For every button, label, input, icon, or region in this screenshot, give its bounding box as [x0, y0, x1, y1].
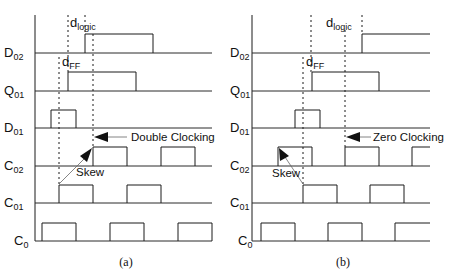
label-dff: dFF [306, 54, 325, 71]
waveform-c01 [303, 185, 404, 203]
label-dlogic: dlogic [326, 15, 352, 32]
label-dlogic: dlogic [70, 15, 96, 32]
waveform-q01 [68, 72, 136, 91]
signal-label-d01: D01 [4, 120, 23, 137]
panel-b: D02 Q01 D01 C02 C01 C0 dlogic dFF Zero C… [230, 15, 444, 269]
waveform-c02 [93, 147, 195, 166]
signal-label-d02: D02 [230, 45, 249, 62]
panel-a: D02 Q01 D01 C02 C01 C0 dlogic dFF Double… [4, 15, 215, 269]
signal-label-d02: D02 [4, 45, 23, 62]
signal-label-q01: Q01 [230, 83, 250, 100]
timing-diagram: D02 Q01 D01 C02 C01 C0 dlogic dFF Double… [0, 0, 453, 276]
label-dff: dFF [62, 54, 81, 71]
signal-label-d01: D01 [230, 120, 249, 137]
signal-label-c0: C0 [238, 233, 252, 250]
signal-label-c02: C02 [230, 158, 249, 175]
waveform-d02 [85, 34, 153, 53]
zero-clocking-arrow [346, 132, 371, 142]
waveform-c01 [59, 185, 161, 203]
signal-label-q01: Q01 [4, 83, 24, 100]
caption-a: (a) [119, 255, 132, 269]
annotation-double-clocking: Double Clocking [131, 131, 215, 143]
waveform-d01 [51, 110, 76, 128]
double-clocking-arrow [94, 132, 127, 142]
waveform-c0 [261, 223, 430, 241]
signal-label-c01: C01 [230, 195, 249, 212]
waveform-d02 [362, 34, 430, 53]
waveform-c0 [42, 223, 212, 241]
signal-label-c01: C01 [4, 195, 23, 212]
signal-label-c0: C0 [14, 233, 28, 250]
annotation-skew-b: Skew [272, 167, 301, 179]
annotation-skew-a: Skew [76, 166, 105, 178]
signal-label-c02: C02 [4, 158, 23, 175]
annotation-zero-clocking: Zero Clocking [373, 131, 444, 143]
waveform-d01 [295, 110, 320, 128]
waveform-c02 [278, 147, 430, 166]
caption-b: (b) [336, 255, 350, 269]
